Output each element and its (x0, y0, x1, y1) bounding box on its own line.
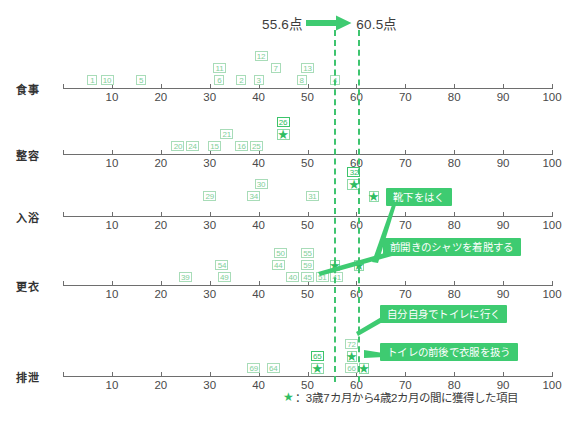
tick-label-50: 50 (293, 91, 323, 103)
tick-label-10: 10 (97, 379, 127, 391)
tick-label-60: 60 (341, 91, 371, 103)
tick-label-70: 70 (390, 288, 420, 300)
tick-90 (503, 212, 504, 217)
item-54: 54 (215, 260, 228, 270)
tick-label-80: 80 (439, 288, 469, 300)
header-annotation: 55.6点60.5点 (262, 13, 397, 33)
row-label-入浴: 入浴 (16, 209, 39, 225)
tick-70 (405, 84, 406, 89)
tick-90 (503, 372, 504, 377)
item-5: 5 (136, 75, 146, 85)
item-55: 55 (301, 248, 314, 258)
item-24: 24 (186, 141, 199, 151)
item-31: 31 (306, 191, 319, 201)
tick-label-10: 10 (97, 157, 127, 169)
tick-label-10: 10 (97, 91, 127, 103)
tick-10 (112, 150, 113, 155)
item-1: 1 (87, 75, 97, 85)
tick-80 (454, 212, 455, 217)
tick-80 (454, 150, 455, 155)
star-icon: ★ (276, 128, 290, 141)
tick-30 (210, 372, 211, 377)
tick-80 (454, 372, 455, 377)
tick-40 (259, 281, 260, 286)
tick-label-40: 40 (244, 379, 274, 391)
callout-shirt: 前開きのシャツを着脱する (383, 238, 521, 256)
item-44: 44 (272, 260, 285, 270)
item-8: 8 (297, 75, 307, 85)
tick-label-50: 50 (293, 219, 323, 231)
tick-label-100: 100 (537, 379, 567, 391)
tick-50 (308, 372, 309, 377)
tick-70 (405, 150, 406, 155)
tick-90 (503, 150, 504, 155)
tick-70 (405, 372, 406, 377)
right-arrow-icon (306, 15, 352, 31)
item-10: 10 (101, 75, 114, 85)
item-15: 15 (208, 141, 221, 151)
item-2: 2 (236, 75, 246, 85)
tick-label-100: 100 (537, 91, 567, 103)
tick-label-10: 10 (97, 219, 127, 231)
tick-label-70: 70 (390, 219, 420, 231)
tick-50 (308, 150, 309, 155)
before-score: 55.6点 (262, 13, 302, 33)
item-39: 39 (179, 272, 192, 282)
tick-label-100: 100 (537, 157, 567, 169)
item-69: 69 (247, 363, 260, 373)
item-51: 51 (316, 272, 329, 282)
star-icon: ★ (283, 390, 294, 404)
row-label-更衣: 更衣 (16, 278, 39, 294)
tick-label-90: 90 (488, 91, 518, 103)
item-40: 40 (286, 272, 299, 282)
item-50: 50 (274, 248, 287, 258)
tick-label-90: 90 (488, 219, 518, 231)
chart-legend: ★：3歳7カ月から4歳2カ月の間に獲得した項目 (283, 389, 518, 405)
item-34: 34 (247, 191, 260, 201)
tick-100 (552, 372, 553, 377)
tick-label-20: 20 (146, 157, 176, 169)
item-29: 29 (203, 191, 216, 201)
callout-toilet-go: 自分自身でトイレに行く (380, 305, 507, 323)
item-6: 6 (214, 75, 224, 85)
tick-10 (112, 372, 113, 377)
axis-endcap (63, 281, 64, 286)
tick-100 (552, 84, 553, 89)
item-41: 41 (330, 272, 343, 282)
row-label-排泄: 排泄 (16, 369, 39, 385)
tick-label-20: 20 (146, 288, 176, 300)
tick-label-10: 10 (97, 288, 127, 300)
tick-label-70: 70 (390, 157, 420, 169)
tick-label-80: 80 (439, 157, 469, 169)
tick-30 (210, 84, 211, 89)
tick-10 (112, 281, 113, 286)
item-25: 25 (250, 141, 263, 151)
item-45: 45 (301, 272, 314, 282)
row-label-整容: 整容 (16, 147, 39, 163)
axis-endcap (63, 150, 64, 155)
item-3: 3 (254, 75, 264, 85)
axis-endcap (63, 212, 64, 217)
item-13: 13 (301, 63, 314, 73)
item-12: 12 (255, 51, 268, 61)
tick-label-100: 100 (537, 219, 567, 231)
tick-10 (112, 212, 113, 217)
tick-label-70: 70 (390, 91, 420, 103)
tick-100 (552, 212, 553, 217)
after-score: 60.5点 (356, 13, 396, 33)
tick-label-80: 80 (439, 219, 469, 231)
item-65: 65 (311, 351, 324, 361)
tick-label-90: 90 (488, 157, 518, 169)
tick-label-60: 60 (341, 288, 371, 300)
tick-label-80: 80 (439, 91, 469, 103)
item-26: 26 (277, 117, 290, 127)
tick-80 (454, 281, 455, 286)
chart-canvas: 55.6点60.5点食事1020304050607080901001105116… (0, 0, 581, 423)
tick-40 (259, 212, 260, 217)
item-59: 59 (301, 260, 314, 270)
item-64: 64 (267, 363, 280, 373)
tick-20 (161, 150, 162, 155)
item-49: 49 (218, 272, 231, 282)
item-20: 20 (171, 141, 184, 151)
callout-socks: 靴下をはく (386, 188, 452, 206)
